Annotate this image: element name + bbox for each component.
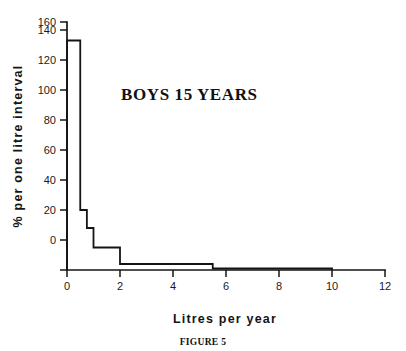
x-axis-title: Litres per year [173, 312, 277, 326]
chart-title: BOYS 15 YEARS [121, 85, 258, 104]
y-tick-label-80: 80 [44, 114, 56, 126]
x-tick-label-2: 2 [117, 280, 123, 292]
x-tick-marks [67, 270, 385, 277]
x-tick-label-6: 6 [223, 280, 229, 292]
y-tick-marks [60, 22, 67, 270]
y-tick-label-40: 40 [44, 174, 56, 186]
x-tick-label-0: 0 [64, 280, 70, 292]
figure-caption: FIGURE 5 [180, 337, 226, 347]
data-series-step-trace [67, 41, 332, 271]
x-tick-label-10: 10 [326, 280, 338, 292]
y-tick-label-0: 0 [50, 234, 56, 246]
y-tick-label-60: 60 [44, 144, 56, 156]
figure-container: 160 140 120 100 80 60 40 20 0 0 2 4 6 8 … [0, 0, 406, 351]
y-tick-label-120: 120 [38, 54, 56, 66]
y-axis-title: % per one litre interval [11, 65, 25, 228]
x-tick-label-8: 8 [276, 280, 282, 292]
y-tick-label-140: 140 [38, 24, 56, 36]
x-tick-label-4: 4 [170, 280, 176, 292]
y-tick-label-100: 100 [38, 84, 56, 96]
x-tick-label-12: 12 [379, 280, 391, 292]
chart-plot-area: 160 140 120 100 80 60 40 20 0 0 2 4 6 8 … [0, 0, 406, 351]
y-tick-label-20: 20 [44, 204, 56, 216]
